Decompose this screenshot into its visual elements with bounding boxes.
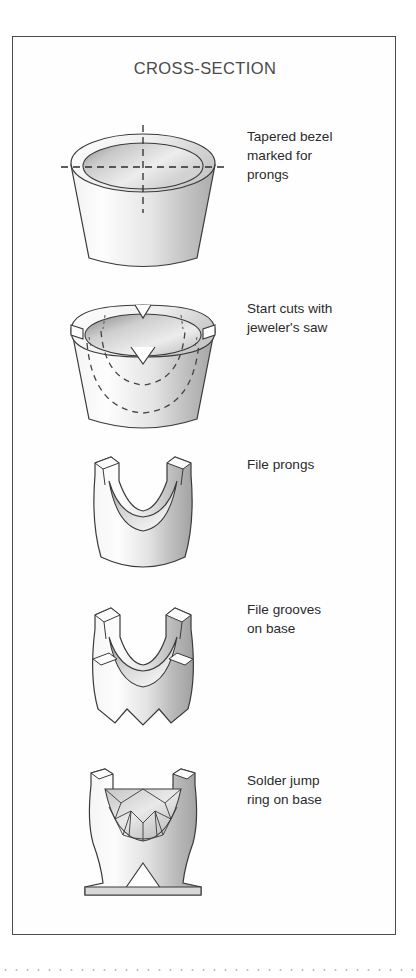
step-5-caption: Solder jump ring on base: [247, 771, 387, 809]
solder-jump-ring-svg: [43, 759, 243, 924]
soldered-jump-ring-base-plate: [85, 887, 201, 895]
step-4-caption: File grooves on base: [247, 600, 387, 638]
filed-grooves-svg: [43, 597, 243, 757]
bezel-saw-cuts-svg: [43, 285, 243, 440]
bezel-start-cuts-illustration: [43, 285, 243, 440]
figure-title: CROSS-SECTION: [13, 59, 397, 78]
bezel-cone-svg: [43, 115, 243, 280]
filed-grooves-base-illustration: [43, 597, 243, 757]
figure-page: CROSS-SECTION: [0, 0, 416, 978]
step-3-caption: File prongs: [247, 455, 387, 474]
filed-prongs-svg: [43, 445, 243, 590]
dotted-separator: [0, 968, 416, 972]
solder-jump-ring-illustration: [43, 759, 243, 924]
step-2-caption: Start cuts with jeweler's saw: [247, 299, 387, 337]
filed-prongs-illustration: [43, 445, 243, 590]
tapered-bezel-marked-illustration: [43, 115, 243, 280]
step-1-caption: Tapered bezel marked for prongs: [247, 127, 387, 184]
figure-frame: CROSS-SECTION: [12, 36, 396, 935]
